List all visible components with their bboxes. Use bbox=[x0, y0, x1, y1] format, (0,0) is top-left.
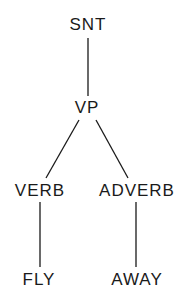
node-away: AWAY bbox=[111, 271, 163, 288]
node-verb: VERB bbox=[15, 182, 65, 199]
node-vp: VP bbox=[75, 99, 100, 116]
node-snt: SNT bbox=[70, 16, 107, 33]
tree-edges bbox=[0, 0, 181, 297]
node-adverb: ADVERB bbox=[99, 182, 175, 199]
edge-vp-verb bbox=[46, 120, 79, 178]
node-fly: FLY bbox=[23, 271, 56, 288]
edge-vp-adverb bbox=[96, 120, 128, 178]
